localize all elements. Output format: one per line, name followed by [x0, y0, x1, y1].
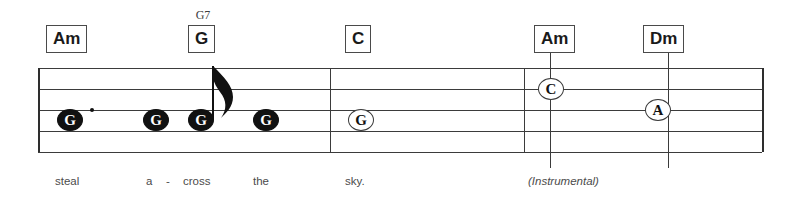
- chord-box-c-2[interactable]: C: [345, 25, 371, 53]
- barline-start: [38, 68, 40, 152]
- notehead-letter: G: [150, 112, 162, 127]
- notehead-letter: G: [195, 112, 207, 127]
- notehead-letter: C: [546, 81, 557, 96]
- staff-line-5: [38, 152, 762, 153]
- notehead-g-2[interactable]: G: [188, 109, 214, 131]
- staff-line-4: [38, 131, 762, 132]
- lyric-syllable-2: -: [166, 175, 170, 187]
- lyric-syllable-1: a: [146, 175, 152, 187]
- chord-box-g-1[interactable]: G: [188, 25, 215, 53]
- notehead-g-1[interactable]: G: [143, 109, 169, 131]
- chord-alt-label-1: G7: [186, 8, 220, 23]
- chord-connector-line-3: [550, 53, 551, 168]
- lyric-syllable-5: sky.: [345, 175, 365, 187]
- staff-line-2: [38, 89, 762, 90]
- notehead-g-4[interactable]: G: [348, 109, 374, 131]
- staff-line-1: [38, 68, 762, 69]
- barline-1: [330, 68, 331, 152]
- lyric-syllable-4: the: [253, 175, 269, 187]
- augmentation-dot-0: [90, 108, 94, 112]
- lyric-syllable-6: (Instrumental): [528, 175, 599, 187]
- barline-end: [762, 68, 764, 152]
- notehead-g-3[interactable]: G: [253, 109, 279, 131]
- eighth-note-flag-2: [213, 66, 237, 124]
- notehead-a-6[interactable]: A: [645, 99, 671, 121]
- chord-box-am-0[interactable]: Am: [46, 25, 87, 53]
- barline-2: [524, 68, 525, 152]
- notehead-letter: G: [355, 112, 367, 127]
- lyric-syllable-0: steal: [55, 175, 79, 187]
- notehead-g-0[interactable]: G: [57, 109, 83, 131]
- chord-box-am-3[interactable]: Am: [534, 25, 575, 53]
- chord-box-dm-4[interactable]: Dm: [643, 25, 684, 53]
- notehead-letter: G: [64, 112, 76, 127]
- lyric-syllable-3: cross: [183, 175, 210, 187]
- notehead-letter: G: [260, 112, 272, 127]
- music-notation-sheet: AmG7GCAmDm GGGGGCA steala-crossthesky.(I…: [0, 0, 798, 204]
- notehead-c-5[interactable]: C: [538, 78, 564, 100]
- notehead-letter: A: [653, 102, 664, 117]
